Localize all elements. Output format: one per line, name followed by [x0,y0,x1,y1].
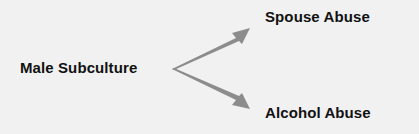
arrows-layer [0,0,419,134]
arrow-to-spouse-abuse [172,28,250,70]
arrow-to-alcohol-abuse [172,68,250,109]
